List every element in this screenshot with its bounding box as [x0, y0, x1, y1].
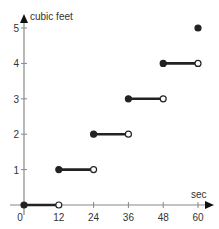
closed-endpoint: [91, 131, 97, 137]
x-axis-arrow-icon: [205, 201, 214, 209]
axes: [10, 14, 214, 215]
y-tick-label: 1: [13, 165, 19, 176]
open-endpoint: [195, 60, 201, 66]
step-segments: [21, 25, 201, 208]
closed-endpoint: [125, 96, 131, 102]
closed-endpoint: [21, 202, 27, 208]
ticks: 0122436486012345: [13, 23, 204, 223]
x-axis-title: sec: [191, 189, 207, 200]
open-endpoint: [56, 202, 62, 208]
y-tick-label: 4: [13, 58, 19, 69]
y-tick-label: 2: [13, 129, 19, 140]
x-tick-label: 12: [53, 212, 65, 223]
closed-endpoint: [160, 60, 166, 66]
step-function-chart: 0122436486012345 cubic feet sec: [0, 0, 219, 229]
y-axis-title: cubic feet: [30, 11, 73, 22]
y-tick-label: 3: [13, 94, 19, 105]
open-endpoint: [91, 167, 97, 173]
closed-endpoint: [56, 167, 62, 173]
y-tick-label: 5: [13, 23, 19, 34]
x-tick-label: 0: [17, 212, 23, 223]
x-tick-label: 48: [158, 212, 170, 223]
open-endpoint: [160, 96, 166, 102]
x-tick-label: 60: [192, 212, 204, 223]
open-endpoint: [125, 131, 131, 137]
y-axis-arrow-icon: [20, 14, 28, 23]
closed-point: [195, 25, 201, 31]
x-tick-label: 36: [123, 212, 135, 223]
x-tick-label: 24: [88, 212, 100, 223]
